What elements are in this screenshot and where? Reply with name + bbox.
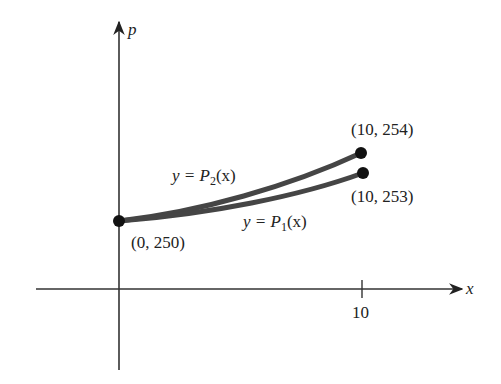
x-axis-label: x xyxy=(465,279,474,298)
label-p2-end: (10, 254) xyxy=(351,120,413,139)
point-p1-end xyxy=(357,167,369,179)
p1-tail: (x) xyxy=(287,212,307,231)
p1-main: y = P xyxy=(241,212,281,231)
label-p1-end: (10, 253) xyxy=(351,187,413,206)
p2-tail: (x) xyxy=(216,166,236,185)
p2-main: y = P xyxy=(170,166,210,185)
point-p2-end xyxy=(355,147,367,159)
svg-text:y = P2(x): y = P2(x) xyxy=(170,166,236,188)
label-origin: (0, 250) xyxy=(131,233,185,252)
y-axis-label: p xyxy=(127,20,137,39)
chart-canvas: p x 10 (0, 250) (10, 254) (10, 253) y = … xyxy=(0,0,501,384)
svg-text:y = P1(x): y = P1(x) xyxy=(241,212,307,234)
point-origin xyxy=(113,215,125,227)
label-curve-p1: y = P1(x) xyxy=(241,212,307,234)
x-tick-label-10: 10 xyxy=(352,303,369,322)
label-curve-p2: y = P2(x) xyxy=(170,166,236,188)
